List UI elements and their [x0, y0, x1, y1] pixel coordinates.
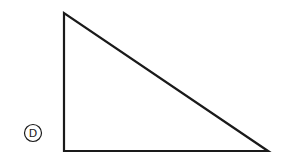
right-triangle	[64, 13, 268, 151]
diagram-canvas: D	[0, 0, 282, 157]
option-label: D	[29, 127, 37, 140]
option-label-badge: D	[25, 125, 42, 142]
triangle-figure: D	[0, 0, 282, 157]
